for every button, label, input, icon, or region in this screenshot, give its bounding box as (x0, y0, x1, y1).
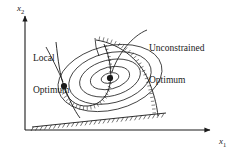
figure-root: Local Optimum Unconstrained Optimum x2 x… (0, 0, 243, 160)
unconstrained-optimum-label-line1: Unconstrained (149, 43, 204, 54)
unconstrained-optimum-marker (107, 75, 113, 81)
constraint-right-arc-hatching (99, 37, 156, 114)
y-axis-label-subscript: 2 (21, 8, 24, 15)
y-axis-label: x2 (17, 3, 24, 15)
x-axis-label: x1 (219, 136, 226, 148)
unconstrained-optimum-label-line2: Optimum (149, 75, 204, 86)
local-optimum-label: Local Optimum (33, 32, 69, 117)
local-optimum-label-line1: Local (33, 53, 69, 64)
unconstrained-optimum-label: Unconstrained Optimum (149, 22, 204, 107)
local-optimum-label-line2: Optimum (33, 85, 69, 96)
x-axis-label-subscript: 1 (223, 141, 226, 148)
